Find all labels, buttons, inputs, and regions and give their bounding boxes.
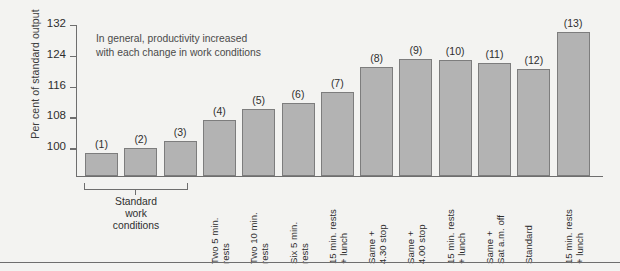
y-tick-label-124: 124 [34,48,66,60]
bar-value-label: (4) [195,105,244,117]
bar-value-label: (7) [313,77,362,89]
group-bracket [84,183,188,190]
bar [557,32,590,176]
x-axis-category-label: Six 5 min. rests [288,180,310,264]
bar-value-label: (6) [274,88,323,100]
y-tick-132 [70,25,77,26]
bar-value-label: (12) [509,54,558,66]
x-axis-category-label: Standard [523,180,534,264]
y-tick-116 [70,87,77,88]
bar-value-label: (13) [549,17,598,29]
bar [517,69,550,176]
y-tick-100 [70,148,77,149]
bar [242,109,275,176]
bar-value-label: (3) [156,126,205,138]
y-tick-124 [70,56,77,57]
bar [85,153,118,176]
bar [321,92,354,176]
x-axis-category-label: 15 min. rests + lunch [445,180,467,264]
bar [439,60,472,176]
y-tick-label-100: 100 [34,140,66,152]
bar [282,103,315,176]
x-axis-category-label: 15 min. rests + lunch [327,180,349,264]
bar [124,148,157,176]
figure-bottom-rule [0,262,620,263]
chart-annotation: In general, productivity increased with … [96,32,261,59]
y-tick-label-116: 116 [34,79,66,91]
chart-figure: Per cent of standard output 100108116124… [0,0,620,271]
bar [399,59,432,176]
y-tick-108 [70,117,77,118]
x-axis-category-label: Two 10 min. rests [248,180,270,264]
bar [360,67,393,176]
group-bracket-label: Standard work conditions [84,196,188,232]
x-axis-category-label: 15 min. rests + lunch [563,180,585,264]
bar [203,120,236,176]
x-axis-category-label: Same + 4.00 stop [405,180,427,264]
x-axis-line [76,176,603,177]
bar [164,141,197,176]
x-axis-category-label: Two 5 min. rests [209,180,231,264]
group-bracket-stem [135,190,136,195]
x-axis-category-label: Same + Sat a.m. off [484,180,506,264]
bar [478,63,511,176]
y-tick-label-108: 108 [34,109,66,121]
y-axis-line [76,25,77,177]
x-axis-category-label: Same + 4.30 stop [366,180,388,264]
y-tick-label-132: 132 [34,17,66,29]
